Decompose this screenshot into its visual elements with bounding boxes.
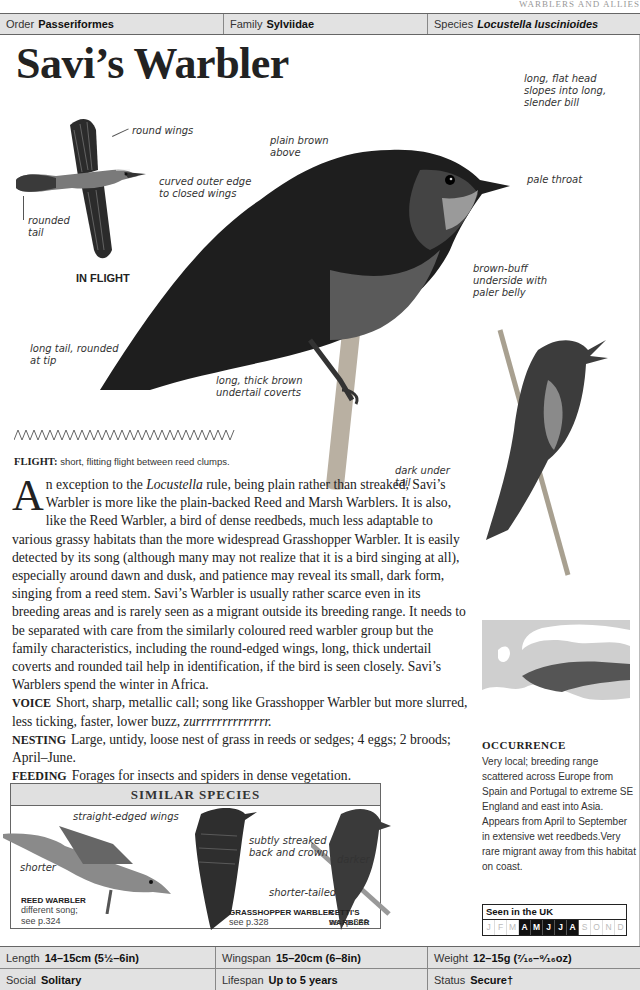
similar-species-box: SIMILAR SPECIES straight-edged wings sho… [10, 783, 381, 929]
label-plain-brown: plain brownabove [270, 135, 329, 159]
month-cell: N [603, 920, 615, 935]
stats-bar: Length14–15cm (5½–6in) Wingspan15–20cm (… [0, 946, 640, 990]
label-underside: brown-buffunderside withpaler belly [473, 263, 547, 299]
label-shorter-tailed: shorter-tailed [269, 887, 336, 899]
range-map [482, 620, 630, 738]
running-head: WARBLERS AND ALLIES [440, 0, 640, 12]
species-label: Species [434, 18, 473, 30]
label-straight-wings: straight-edged wings [73, 811, 179, 823]
family-value: Sylviidae [266, 18, 314, 30]
label-shorter: shorter [20, 862, 56, 874]
family-cell: FamilySylviidae [224, 14, 428, 34]
species-value: Locustella luscinioides [477, 18, 598, 30]
month-cell: A [519, 920, 531, 935]
label-rounded-tail: roundedtail [28, 215, 70, 239]
species-cell: SpeciesLocustella luscinioides [428, 14, 640, 34]
social-stat: SocialSolitary [0, 969, 216, 990]
lifespan-stat: LifespanUp to 5 years [216, 969, 428, 990]
month-cell: J [483, 920, 495, 935]
month-cell: J [543, 920, 555, 935]
species-note: see p.328 [229, 917, 269, 928]
seen-in-uk-calendar: Seen in the UK JFMAMJJASOND [482, 904, 627, 936]
order-cell: OrderPasseriformes [0, 14, 224, 34]
species-note: see p.330 [329, 917, 369, 928]
month-cell: S [579, 920, 591, 935]
order-value: Passeriformes [38, 18, 114, 30]
label-head: long, flat headslopes into long,slender … [524, 73, 606, 109]
nesting-section: NESTINGLarge, untidy, loose nest of gras… [12, 731, 470, 767]
stats-row: SocialSolitary LifespanUp to 5 years Sta… [0, 969, 640, 990]
species-description: An exception to the Locustella rule, bei… [12, 476, 470, 785]
species-note: different song;see p.324 [21, 905, 78, 927]
month-cell: D [615, 920, 626, 935]
month-cell: A [567, 920, 579, 935]
stats-row: Length14–15cm (5½–6in) Wingspan15–20cm (… [0, 947, 640, 969]
label-darker: darker [337, 854, 370, 866]
leader-line [23, 196, 24, 220]
length-stat: Length14–15cm (5½–6in) [0, 947, 216, 968]
month-cell: F [495, 920, 507, 935]
month-cell: O [591, 920, 603, 935]
label-curved-wings: curved outer edgeto closed wings [159, 176, 251, 200]
similar-species-heading: SIMILAR SPECIES [11, 784, 380, 806]
label-subtly-streaked: subtly streakedback and crown [249, 835, 328, 859]
occurrence-title: OCCURRENCE [482, 739, 566, 751]
singing-bird-illustration [478, 320, 618, 580]
page-title: Savi’s Warbler [16, 38, 289, 89]
label-long-tail: long tail, roundedat tip [30, 343, 118, 367]
month-cell: M [531, 920, 543, 935]
seen-in-uk-title: Seen in the UK [483, 905, 626, 920]
order-label: Order [6, 18, 34, 30]
status-stat: StatusSecure† [428, 969, 640, 990]
label-undertail-coverts: long, thick brownundertail coverts [216, 375, 303, 399]
month-strip: JFMAMJJASOND [483, 920, 626, 935]
occurrence-text: Very local; breeding range scattered acr… [482, 754, 637, 874]
wingspan-stat: Wingspan15–20cm (6–8in) [216, 947, 428, 968]
month-cell: M [507, 920, 519, 935]
weight-stat: Weight12–15g (⁷⁄₁₆–⁹⁄₁₆oz) [428, 947, 640, 968]
flight-pattern-icon [14, 428, 236, 442]
family-label: Family [230, 18, 262, 30]
month-cell: J [555, 920, 567, 935]
flight-description: FLIGHT: short, flitting flight between r… [14, 456, 230, 467]
description-paragraph: An exception to the Locustella rule, bei… [12, 476, 470, 694]
taxonomy-bar: OrderPasseriformes FamilySylviidae Speci… [0, 13, 640, 35]
label-throat: pale throat [527, 174, 582, 186]
voice-section: VOICEShort, sharp, metallic call; song l… [12, 694, 470, 730]
